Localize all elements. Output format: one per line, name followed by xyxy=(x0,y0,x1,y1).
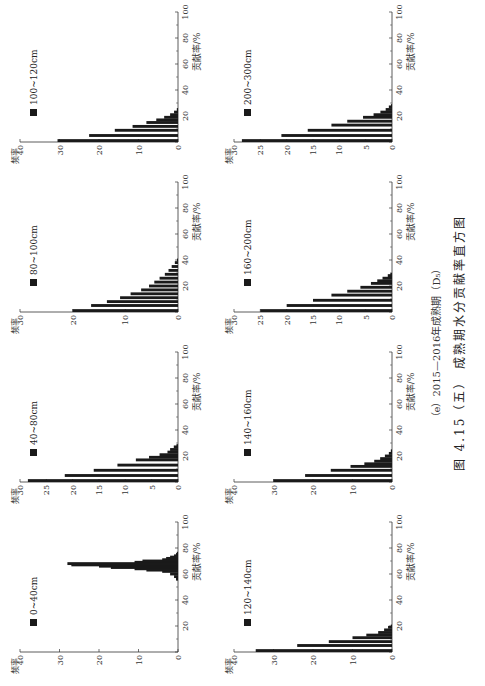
figure-subcaption: （e）2015—2016年成熟期（D₅） xyxy=(428,0,443,686)
histogram-bar xyxy=(380,457,392,460)
x-tick-label: 100 xyxy=(395,174,404,189)
x-tick-label: 60 xyxy=(395,399,404,409)
histogram-200-300cm: 05101520253020406080100贡献率/%频率200~300cm xyxy=(222,0,427,168)
histogram-bar xyxy=(391,449,392,452)
histogram-bar xyxy=(331,124,392,127)
histogram-bar xyxy=(378,631,392,634)
x-tick-label: 60 xyxy=(395,569,404,579)
histogram-bar xyxy=(117,464,178,467)
histogram-bar xyxy=(65,474,178,477)
y-axis-label: 频率 xyxy=(10,148,20,164)
histogram-bar xyxy=(115,129,178,132)
x-tick-label: 100 xyxy=(395,4,404,19)
histogram-bar xyxy=(329,640,392,643)
figure-caption: 图 4.15（五） 成熟期水分贡献率直方图 xyxy=(450,0,467,686)
x-tick-label: 20 xyxy=(181,621,190,631)
histogram-bar xyxy=(146,121,178,124)
y-tick-label: 20 xyxy=(69,485,78,495)
histogram-bar xyxy=(177,108,178,111)
histogram-0-40cm: 01020304020406080100贡献率/%频率0~40cm xyxy=(8,508,213,678)
histogram-bar xyxy=(374,460,392,463)
histogram-bar xyxy=(377,279,392,282)
y-tick-label: 20 xyxy=(309,485,318,495)
x-axis-label: 贡献率/% xyxy=(405,372,416,411)
histogram-bar xyxy=(390,273,392,276)
legend-label: 200~300cm xyxy=(243,49,253,105)
chart-row-bottom: 01020304020406080100贡献率/%频率120~140cm 010… xyxy=(222,0,427,686)
histogram-bar xyxy=(58,139,178,142)
histogram-bar xyxy=(170,113,178,116)
histogram-bar xyxy=(136,458,178,461)
legend-label: 80~100cm xyxy=(29,225,39,275)
y-axis-label: 频率 xyxy=(224,658,234,674)
histogram-bar xyxy=(380,111,392,114)
x-tick-label: 60 xyxy=(181,59,190,69)
histogram-bar xyxy=(176,578,178,581)
legend-swatch xyxy=(244,279,251,286)
x-tick-label: 20 xyxy=(181,111,190,121)
histogram-bar xyxy=(169,269,178,272)
legend-swatch xyxy=(244,619,251,626)
histogram-bar xyxy=(177,552,178,555)
x-tick-label: 60 xyxy=(181,399,190,409)
document-page: 01020304020406080100贡献率/%频率0~40cm 051015… xyxy=(0,0,485,686)
y-tick-label: 10 xyxy=(121,485,130,495)
x-tick-label: 60 xyxy=(181,229,190,239)
legend-swatch xyxy=(244,449,251,456)
y-tick-label: 25 xyxy=(256,145,265,155)
x-tick-label: 20 xyxy=(181,451,190,461)
histogram-bar xyxy=(28,479,178,482)
histogram-bar xyxy=(331,294,392,297)
histogram-bar xyxy=(174,111,178,114)
y-tick-label: 30 xyxy=(56,655,65,665)
histogram-bar xyxy=(256,649,392,652)
histogram-bar xyxy=(154,281,178,284)
x-tick-label: 40 xyxy=(395,85,404,95)
x-tick-label: 100 xyxy=(181,174,190,189)
histogram-bar xyxy=(351,465,392,468)
histogram-bar xyxy=(374,113,392,116)
histogram-160-200cm: 05101520253020406080100贡献率/%频率160~200cm xyxy=(222,168,427,338)
histogram-bar xyxy=(170,573,178,576)
x-tick-label: 80 xyxy=(395,203,404,213)
x-axis-label: 贡献率/% xyxy=(405,542,416,581)
y-tick-label: 5 xyxy=(148,485,157,490)
y-tick-label: 15 xyxy=(309,315,318,325)
y-tick-label: 0 xyxy=(174,145,183,150)
legend-label: 0~40cm xyxy=(29,576,39,615)
y-tick-label: 10 xyxy=(135,145,144,155)
histogram-bar xyxy=(160,277,178,280)
y-tick-label: 20 xyxy=(95,655,104,665)
legend-swatch xyxy=(30,619,37,626)
x-tick-label: 80 xyxy=(395,543,404,553)
y-tick-label: 25 xyxy=(256,315,265,325)
histogram-120-140cm: 01020304020406080100贡献率/%频率120~140cm xyxy=(222,508,427,678)
x-tick-label: 80 xyxy=(181,373,190,383)
histogram-bar xyxy=(91,304,178,307)
histogram-bar xyxy=(363,116,392,119)
histogram-bar xyxy=(156,118,178,121)
histogram-bar xyxy=(383,277,392,280)
x-tick-label: 40 xyxy=(181,255,190,265)
legend-swatch xyxy=(30,449,37,456)
histogram-bar xyxy=(174,575,178,578)
y-tick-label: 0 xyxy=(388,315,397,320)
y-axis-label: 频率 xyxy=(224,488,234,504)
x-tick-label: 20 xyxy=(181,281,190,291)
histogram-bar xyxy=(347,290,392,293)
y-tick-label: 10 xyxy=(135,655,144,665)
y-tick-label: 15 xyxy=(309,145,318,155)
histogram-40-80cm: 05101520253020406080100贡献率/%频率40~80cm xyxy=(8,338,213,508)
y-tick-label: 30 xyxy=(56,145,65,155)
x-tick-label: 40 xyxy=(395,255,404,265)
x-tick-label: 20 xyxy=(395,451,404,461)
histogram-bar xyxy=(389,452,392,455)
histogram-bar xyxy=(177,259,178,262)
histogram-bar xyxy=(308,129,392,132)
chart-row-top: 01020304020406080100贡献率/%频率0~40cm 051015… xyxy=(8,0,213,686)
y-axis-label: 频率 xyxy=(10,318,20,334)
x-tick-label: 80 xyxy=(395,373,404,383)
y-tick-label: 0 xyxy=(388,655,397,660)
legend-label: 160~200cm xyxy=(243,219,253,275)
x-tick-label: 60 xyxy=(395,59,404,69)
